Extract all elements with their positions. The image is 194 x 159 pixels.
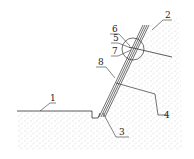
- label-1: 1: [50, 93, 56, 103]
- label-8: 8: [98, 57, 104, 67]
- label-2: 2: [165, 10, 171, 20]
- soil-region: [17, 18, 182, 150]
- diagram-canvas: 1 2 3 4 5 6 7 8: [0, 0, 194, 159]
- label-5: 5: [113, 33, 119, 43]
- label-7: 7: [112, 46, 118, 56]
- label-4: 4: [164, 110, 170, 120]
- label-6: 6: [112, 24, 118, 34]
- label-3: 3: [119, 127, 125, 137]
- slope-diagram: 1 2 3 4 5 6 7 8: [0, 0, 194, 159]
